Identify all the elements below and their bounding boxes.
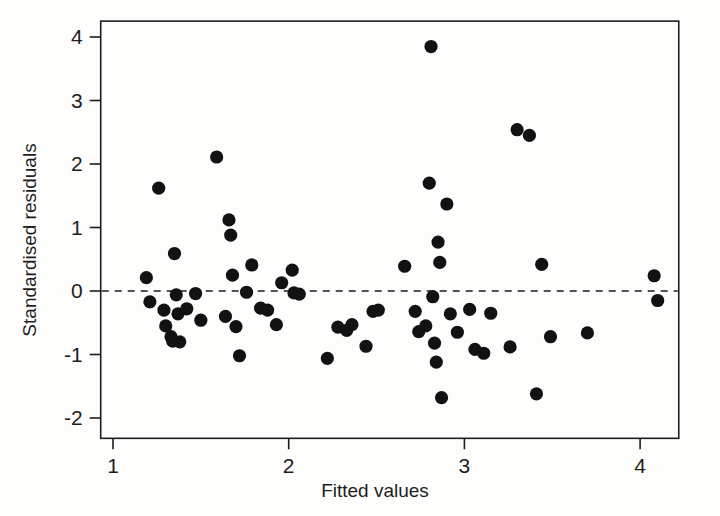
y-tick-label: -1 <box>64 343 83 366</box>
y-tick-label: 3 <box>71 89 83 112</box>
scatter-plot-canvas: 1234 -2-101234 Fitted values Standardise… <box>0 0 720 516</box>
data-point <box>372 303 385 316</box>
data-point <box>219 310 232 323</box>
data-point <box>648 269 661 282</box>
data-point <box>431 236 444 249</box>
data-point <box>189 287 202 300</box>
x-tick-label: 1 <box>107 454 119 477</box>
data-point <box>157 303 170 316</box>
data-point <box>523 129 536 142</box>
data-point <box>321 352 334 365</box>
data-point <box>270 318 283 331</box>
y-tick-label: 4 <box>71 25 83 48</box>
data-point <box>477 347 490 360</box>
data-point <box>535 258 548 271</box>
data-point <box>430 356 443 369</box>
data-points <box>140 40 664 404</box>
data-point <box>433 256 446 269</box>
data-point <box>229 320 242 333</box>
data-point <box>293 288 306 301</box>
y-tick-label: 2 <box>71 152 83 175</box>
data-point <box>409 305 422 318</box>
y-tick-label: 0 <box>71 279 83 302</box>
x-axis-ticks: 1234 <box>107 438 646 477</box>
data-point <box>261 303 274 316</box>
data-point <box>152 182 165 195</box>
data-point <box>173 335 186 348</box>
data-point <box>463 303 476 316</box>
data-point <box>503 340 516 353</box>
data-point <box>140 271 153 284</box>
data-point <box>530 387 543 400</box>
data-point <box>222 213 235 226</box>
data-point <box>345 318 358 331</box>
data-point <box>435 391 448 404</box>
data-point <box>224 229 237 242</box>
data-point <box>511 123 524 136</box>
data-point <box>440 197 453 210</box>
x-tick-label: 4 <box>634 454 646 477</box>
data-point <box>180 302 193 315</box>
residual-plot-figure: 1234 -2-101234 Fitted values Standardise… <box>0 0 720 516</box>
x-tick-label: 2 <box>283 454 295 477</box>
y-axis-title: Standardised residuals <box>19 143 40 336</box>
data-point <box>419 319 432 332</box>
y-tick-label: 1 <box>71 216 83 239</box>
data-point <box>428 336 441 349</box>
data-point <box>398 260 411 273</box>
data-point <box>233 349 246 362</box>
data-point <box>168 247 181 260</box>
data-point <box>194 314 207 327</box>
data-point <box>544 330 557 343</box>
data-point <box>581 326 594 339</box>
plot-frame <box>101 21 679 438</box>
data-point <box>484 307 497 320</box>
y-axis-ticks: -2-101234 <box>64 25 101 429</box>
data-point <box>426 290 439 303</box>
data-point <box>359 340 372 353</box>
x-axis-title: Fitted values <box>321 480 429 501</box>
data-point <box>651 294 664 307</box>
data-point <box>275 276 288 289</box>
x-tick-label: 3 <box>459 454 471 477</box>
data-point <box>210 150 223 163</box>
data-point <box>423 176 436 189</box>
data-point <box>245 258 258 271</box>
data-point <box>451 326 464 339</box>
data-point <box>424 40 437 53</box>
y-tick-label: -2 <box>64 406 83 429</box>
data-point <box>170 288 183 301</box>
data-point <box>286 263 299 276</box>
data-point <box>226 269 239 282</box>
data-point <box>444 307 457 320</box>
data-point <box>143 295 156 308</box>
data-point <box>240 286 253 299</box>
